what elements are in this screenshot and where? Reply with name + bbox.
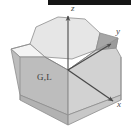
- figure-root: z y x G,L: [0, 0, 131, 131]
- axis-label-x: x: [116, 99, 121, 109]
- axis-label-y: y: [115, 26, 120, 36]
- polyhedron-solid: [11, 17, 121, 125]
- polyhedron-diagram: z y x G,L: [0, 0, 131, 131]
- axis-label-z: z: [70, 3, 75, 13]
- label-gamma-l: G,L: [37, 72, 52, 82]
